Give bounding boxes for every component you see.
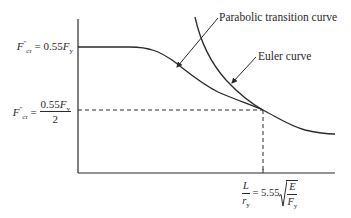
fraction: 0.55Fy 2 (40, 99, 71, 125)
subscript-y: y (70, 47, 74, 55)
double-prime: ″ (19, 105, 22, 113)
length-symbol: L (242, 181, 250, 194)
coefficient: 5.55 (261, 187, 279, 198)
upper-critical-stress-label: F″cr = 0.55Fy (17, 41, 73, 52)
modulus-symbol: E (287, 182, 297, 195)
square-root: E Fy (279, 180, 298, 207)
parabolic-curve-label: Parabolic transition curve (219, 12, 337, 24)
fraction-denominator: 2 (40, 112, 71, 125)
equals-sign: = (252, 187, 258, 198)
parabolic-transition-curve (78, 47, 263, 110)
subscript-y: y (67, 105, 71, 113)
coefficient: 0.55 (44, 40, 63, 52)
subscript-y: y (294, 202, 298, 210)
equals-sign: = (35, 40, 41, 52)
fraction-numerator: 0.55Fy (40, 99, 71, 112)
symbol-f: F (63, 40, 70, 52)
subscript-cr: cr (22, 113, 27, 121)
subscript-y: y (246, 201, 250, 209)
lower-critical-stress-label: F″cr = 0.55Fy 2 (13, 99, 71, 125)
coefficient: 0.55 (41, 98, 60, 110)
subscript-cr: cr (26, 47, 31, 55)
radical-sign-icon (279, 180, 287, 207)
slenderness-ratio: L ry (242, 181, 250, 206)
euler-curve-label: Euler curve (258, 51, 311, 63)
euler-curve (195, 17, 335, 134)
equals-sign: = (31, 106, 37, 118)
slenderness-limit-label: L ry = 5.55 E Fy (242, 180, 298, 207)
sqrt-fraction: E Fy (287, 182, 297, 207)
symbol-f: F (60, 98, 67, 110)
euler-leader-arrow (232, 57, 256, 83)
